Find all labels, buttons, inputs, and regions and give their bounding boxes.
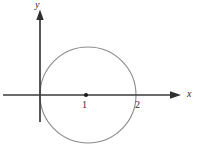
figure-canvas bbox=[0, 0, 198, 152]
circle-diagram-figure: y x 1 2 bbox=[0, 0, 198, 152]
x-axis-arrow-icon bbox=[170, 91, 181, 98]
x-axis-label: x bbox=[187, 89, 191, 99]
x-tick-label-1: 1 bbox=[82, 100, 87, 110]
y-axis-arrow-icon bbox=[36, 10, 43, 21]
x-tick-label-2: 2 bbox=[135, 100, 140, 110]
center-dot-marker bbox=[84, 93, 88, 97]
y-axis-label: y bbox=[35, 0, 39, 10]
